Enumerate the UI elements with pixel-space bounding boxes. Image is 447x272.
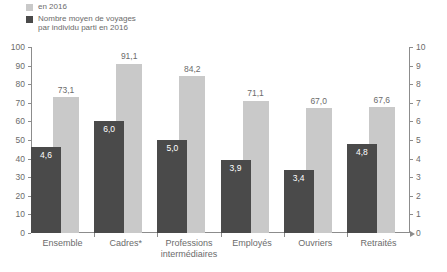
axis-tick-label: 30 bbox=[16, 173, 25, 182]
legend-label: en 2016 bbox=[38, 2, 67, 12]
axis-tick bbox=[28, 233, 31, 234]
x-axis-tick bbox=[284, 233, 285, 237]
bar-value-label: 5,0 bbox=[166, 144, 178, 153]
axis-tick bbox=[410, 159, 413, 160]
bar-dark: 5,0 bbox=[157, 140, 187, 233]
bar-dark: 4,6 bbox=[31, 147, 61, 233]
axis-tick-label: 6 bbox=[416, 117, 421, 126]
axis-tick-label: 3 bbox=[416, 173, 421, 182]
bar-value-label: 3,9 bbox=[230, 164, 242, 173]
axis-tick-label: 2 bbox=[416, 192, 421, 201]
axis-tick-label: 4 bbox=[416, 155, 421, 164]
chart-container: en 2016Nombre moyen de voyages par indiv… bbox=[0, 0, 447, 272]
axis-tick bbox=[410, 140, 413, 141]
bar-value-label: 67,0 bbox=[310, 97, 327, 106]
bar-group: 73,14,6 bbox=[31, 47, 94, 233]
axis-tick-label: 50 bbox=[16, 136, 25, 145]
x-axis-tick bbox=[94, 233, 95, 237]
bar-group: 91,16,0 bbox=[94, 47, 157, 233]
axis-tick-label: 90 bbox=[16, 62, 25, 71]
bar-value-label: 71,1 bbox=[247, 89, 264, 98]
axis-tick-label: 80 bbox=[16, 80, 25, 89]
axis-tick-label: 0 bbox=[416, 229, 421, 238]
bar-value-label: 73,1 bbox=[58, 86, 75, 95]
axis-tick bbox=[410, 196, 413, 197]
axis-tick-label: 20 bbox=[16, 192, 25, 201]
axis-tick-label: 40 bbox=[16, 155, 25, 164]
bar-value-label: 91,1 bbox=[121, 52, 138, 61]
bar-value-label: 67,6 bbox=[374, 96, 391, 105]
axis-tick-label: 10 bbox=[416, 43, 425, 52]
axis-tick bbox=[410, 214, 413, 215]
x-axis-category-label: Cadres* bbox=[94, 238, 157, 249]
bar-value-label: 84,2 bbox=[184, 65, 201, 74]
axis-tick-label: 100 bbox=[11, 43, 25, 52]
axis-tick-label: 8 bbox=[416, 80, 421, 89]
axis-tick bbox=[410, 177, 413, 178]
axis-tick bbox=[410, 66, 413, 67]
legend-item: Nombre moyen de voyages par individu par… bbox=[26, 14, 266, 33]
bar-group: 71,13,9 bbox=[221, 47, 284, 233]
axis-tick bbox=[410, 233, 413, 234]
bar-group: 67,64,8 bbox=[347, 47, 410, 233]
bar-dark: 3,4 bbox=[284, 170, 314, 233]
bar-group: 67,03,4 bbox=[284, 47, 347, 233]
axis-tick-label: 0 bbox=[20, 229, 25, 238]
axis-tick-label: 5 bbox=[416, 136, 421, 145]
x-axis-tick bbox=[347, 233, 348, 237]
x-axis-category-label: Ensemble bbox=[31, 238, 94, 249]
axis-tick-label: 9 bbox=[416, 62, 421, 71]
axis-tick-label: 1 bbox=[416, 210, 421, 219]
legend-swatch-dark bbox=[26, 16, 33, 23]
bar-value-label: 4,8 bbox=[356, 148, 368, 157]
chart-legend: en 2016Nombre moyen de voyages par indiv… bbox=[26, 2, 266, 35]
axis-tick bbox=[410, 84, 413, 85]
axis-tick-label: 7 bbox=[416, 99, 421, 108]
bar-value-label: 3,4 bbox=[293, 174, 305, 183]
axis-tick bbox=[410, 103, 413, 104]
bar-value-label: 4,6 bbox=[40, 151, 52, 160]
axis-tick-label: 10 bbox=[16, 210, 25, 219]
plot-area: 0102030405060708090100 012345678910 73,1… bbox=[31, 47, 410, 233]
bar-value-label: 6,0 bbox=[103, 125, 115, 134]
legend-swatch-light bbox=[26, 4, 33, 11]
legend-label: Nombre moyen de voyages par individu par… bbox=[38, 14, 136, 33]
bar-dark: 6,0 bbox=[94, 121, 124, 233]
bar-dark: 4,8 bbox=[347, 144, 377, 233]
x-axis-tick bbox=[221, 233, 222, 237]
legend-item: en 2016 bbox=[26, 2, 266, 12]
bar-group: 84,25,0 bbox=[157, 47, 220, 233]
x-axis-category-label: Retraités bbox=[347, 238, 410, 249]
axis-tick bbox=[410, 121, 413, 122]
x-axis-category-label: Professions intermédiaires bbox=[157, 238, 220, 260]
x-axis-category-label: Employés bbox=[221, 238, 284, 249]
axis-tick-label: 60 bbox=[16, 117, 25, 126]
bar-dark: 3,9 bbox=[221, 160, 251, 233]
x-axis-category-label: Ouvriers bbox=[284, 238, 347, 249]
x-axis-tick bbox=[157, 233, 158, 237]
axis-tick bbox=[410, 47, 413, 48]
axis-tick-label: 70 bbox=[16, 99, 25, 108]
